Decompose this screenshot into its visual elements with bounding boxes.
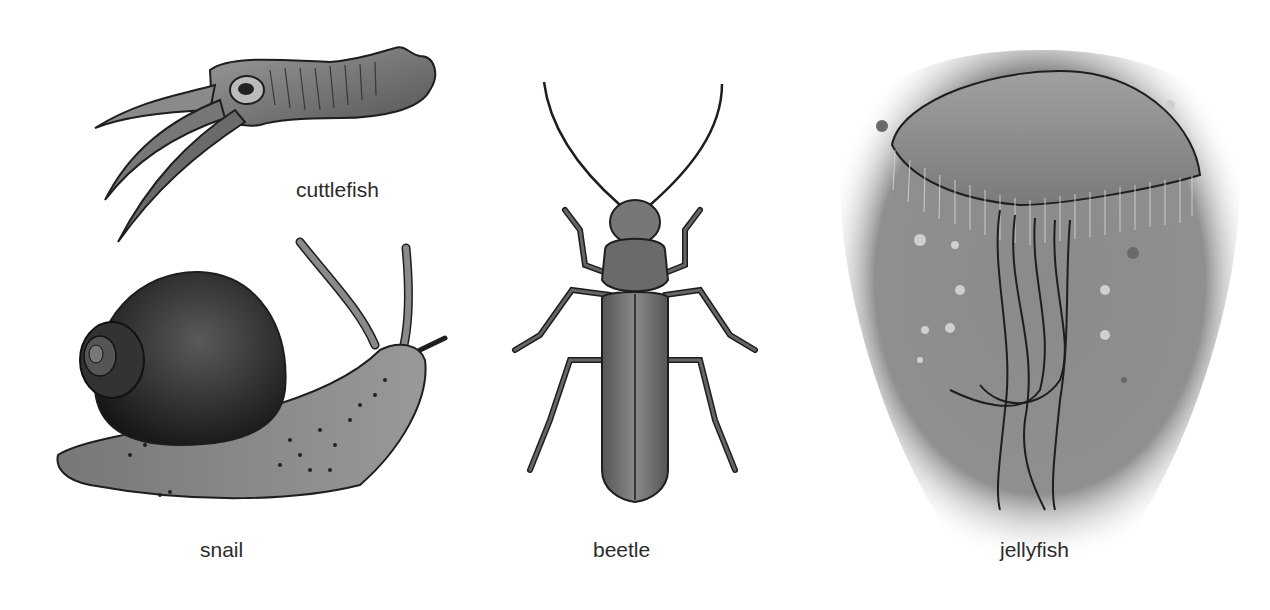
jellyfish-label: jellyfish <box>1000 538 1069 562</box>
snail-label: snail <box>200 538 243 562</box>
beetle-illustration <box>500 70 770 570</box>
beetle-label: beetle <box>593 538 650 562</box>
cuttlefish-illustration <box>0 0 460 240</box>
jellyfish-illustration <box>820 40 1260 580</box>
cuttlefish-label: cuttlefish <box>296 178 379 202</box>
beetle-panel: beetle <box>500 70 770 570</box>
jellyfish-panel: jellyfish <box>820 40 1260 580</box>
cuttlefish-panel: cuttlefish <box>0 0 460 240</box>
snail-panel: snail <box>0 230 470 610</box>
